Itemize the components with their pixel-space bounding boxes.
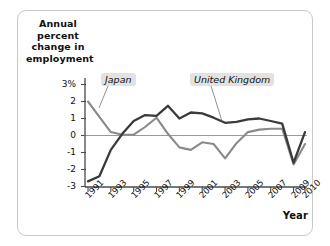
data-line-united-kingdom (88, 106, 305, 182)
chart-plot-area (0, 0, 330, 246)
y-tick-label: 3% (52, 79, 76, 89)
y-tick-label: 0 (52, 130, 76, 140)
leader-line-japan (99, 86, 108, 108)
y-tick-label: 1 (52, 113, 76, 123)
axis-ticks (81, 85, 305, 193)
y-tick-label: 2 (52, 96, 76, 106)
y-tick-label: -2 (52, 164, 76, 174)
data-line-japan (88, 102, 305, 165)
y-tick-label: -1 (52, 147, 76, 157)
chart-screenshot: Annual percent change in employment Year… (0, 0, 330, 246)
y-tick-label: -3 (52, 181, 76, 191)
leader-line-united-kingdom (211, 86, 222, 121)
